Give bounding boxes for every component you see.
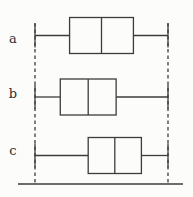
boxplot-figure: a b c [0,0,193,197]
boxplot-canvas [0,0,193,197]
